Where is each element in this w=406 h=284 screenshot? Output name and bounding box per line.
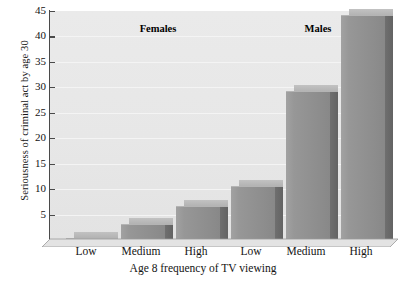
tick-35 — [50, 62, 55, 63]
category-label-females-high: High — [166, 245, 226, 257]
tick-40 — [50, 36, 55, 37]
plot-area: Females Males — [50, 11, 390, 240]
tick-label-40: 40 — [16, 30, 46, 41]
bar-females-high — [176, 207, 220, 240]
bar-front-face — [176, 206, 220, 240]
y-axis-line — [49, 10, 50, 241]
gridline-20 — [50, 138, 390, 139]
x-axis-title: Age 8 frequency of TV viewing — [0, 262, 406, 274]
bar-side-face — [275, 187, 283, 240]
tick-label-5: 5 — [16, 209, 46, 220]
bar-side-face — [330, 92, 338, 240]
gridline-10 — [50, 189, 390, 190]
tick-label-25: 25 — [16, 107, 46, 118]
category-label-males-high: High — [331, 245, 391, 257]
bar-chart-figure: Seriousness of criminal act by age 30 — [0, 0, 406, 284]
tick-label-15: 15 — [16, 158, 46, 169]
gridline-25 — [50, 113, 390, 114]
bar-males-low — [231, 187, 275, 240]
bar-front-face — [341, 15, 385, 240]
tick-30 — [50, 87, 55, 88]
category-label-females-medium: Medium — [107, 245, 175, 257]
tick-label-20: 20 — [16, 132, 46, 143]
bar-front-face — [231, 186, 275, 240]
category-label-males-medium: Medium — [272, 245, 340, 257]
group-label-males: Males — [268, 23, 368, 34]
tick-label-35: 35 — [16, 56, 46, 67]
bar-front-face — [286, 91, 330, 240]
tick-5 — [50, 215, 55, 216]
bar-males-medium — [286, 92, 330, 240]
tick-10 — [50, 189, 55, 190]
tick-label-10: 10 — [16, 183, 46, 194]
bar-side-face — [385, 16, 393, 240]
group-label-females: Females — [108, 23, 208, 34]
bar-side-face — [220, 207, 228, 240]
tick-label-45: 45 — [16, 5, 46, 16]
tick-label-30: 30 — [16, 81, 46, 92]
gridline-30 — [50, 87, 390, 88]
tick-45 — [50, 11, 55, 12]
tick-25 — [50, 113, 55, 114]
tick-20 — [50, 138, 55, 139]
gridline-35 — [50, 62, 390, 63]
bar-males-high — [341, 16, 385, 240]
gridline-40 — [50, 36, 390, 37]
gridline-15 — [50, 164, 390, 165]
tick-15 — [50, 164, 55, 165]
